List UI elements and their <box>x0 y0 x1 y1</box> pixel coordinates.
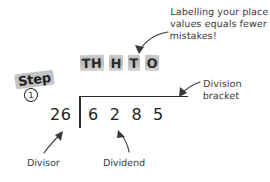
dividend-label: Dividend <box>103 157 146 168</box>
divisor-label: Divisor <box>27 157 60 168</box>
arrow-to-dividend-icon <box>0 0 270 182</box>
long-division-diagram: Labelling your place values equals fewer… <box>0 0 270 182</box>
